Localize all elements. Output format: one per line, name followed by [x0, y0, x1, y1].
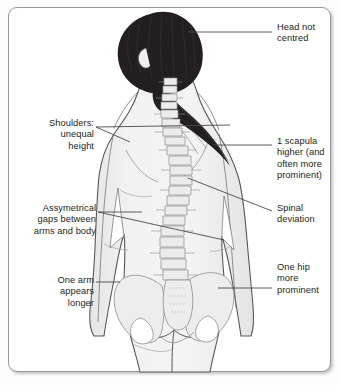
label-shoulders-unequal-height: Shoulders: unequal height	[22, 118, 94, 152]
label-head-not-centred: Head not centred	[277, 22, 339, 45]
label-assymetrical-gaps: Assymetrical gaps between arms and body	[14, 203, 96, 237]
anatomy-illustration	[0, 0, 341, 385]
label-one-arm-appears-longer: One arm appears longer	[22, 275, 94, 309]
label-scapula-higher: 1 scapula higher (and often more promine…	[277, 136, 341, 182]
label-one-hip-more-prominent: One hip more prominent	[277, 262, 339, 296]
label-spinal-deviation: Spinal deviation	[277, 203, 339, 226]
diagram-root: Head not centred 1 scapula higher (and o…	[0, 0, 341, 385]
